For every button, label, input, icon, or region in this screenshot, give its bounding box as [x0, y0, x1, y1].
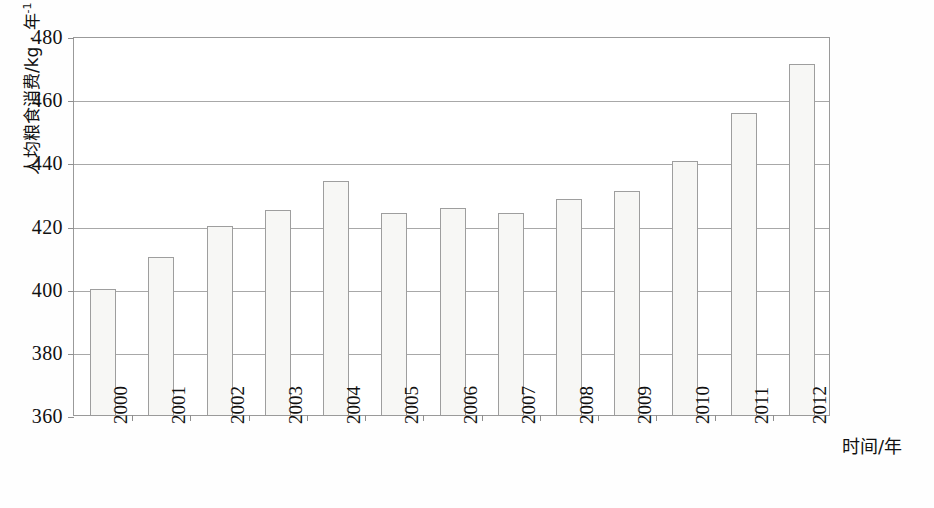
- chart-figure: 人均粮食消费/kg · 年-1 480460440420400380360 20…: [0, 0, 934, 508]
- x-axis-tick: [598, 415, 599, 421]
- x-axis-tick: [132, 415, 133, 421]
- x-axis-tick: [656, 415, 657, 421]
- y-axis-tick-label: 440: [17, 153, 63, 173]
- x-axis-tick-label: 2009: [635, 404, 654, 424]
- y-axis-title-superscript: -1: [21, 2, 34, 13]
- x-axis-tick-label: 2007: [519, 404, 538, 424]
- bar: [323, 181, 349, 415]
- x-axis-tick: [365, 415, 366, 421]
- y-axis-tick-label: 400: [17, 280, 63, 300]
- x-axis-tick-label: 2006: [461, 404, 480, 424]
- y-axis-tick: [68, 101, 74, 102]
- y-axis-tick: [68, 417, 74, 418]
- bar: [440, 208, 466, 415]
- x-axis-tick-label: 2008: [577, 404, 596, 424]
- x-axis-tick: [423, 415, 424, 421]
- bar: [381, 213, 407, 415]
- bar: [614, 191, 640, 415]
- x-axis-tick: [249, 415, 250, 421]
- y-axis-tick: [68, 291, 74, 292]
- y-axis-tick-label: 360: [17, 406, 63, 426]
- bar: [498, 213, 524, 415]
- y-axis-tick-label: 480: [17, 27, 63, 47]
- x-axis-tick: [190, 415, 191, 421]
- y-axis-tick: [68, 164, 74, 165]
- x-axis-tick-label: 2010: [693, 404, 712, 424]
- x-axis-tick-label: 2002: [228, 404, 247, 424]
- x-axis-tick-label: 2011: [752, 404, 771, 424]
- bar: [789, 64, 815, 415]
- x-axis-title: 时间/年: [842, 432, 902, 458]
- x-axis-tick: [307, 415, 308, 421]
- x-axis-tick: [482, 415, 483, 421]
- y-axis-tick-label: 460: [17, 90, 63, 110]
- bar-series: [74, 38, 829, 415]
- x-axis-tick: [715, 415, 716, 421]
- bar: [731, 113, 757, 415]
- x-axis-tick-label: 2000: [111, 404, 130, 424]
- x-axis-tick-label: 2005: [402, 404, 421, 424]
- bar: [265, 210, 291, 415]
- y-axis-tick-label: 380: [17, 343, 63, 363]
- y-axis-tick-label: 420: [17, 217, 63, 237]
- plot-area: [73, 37, 830, 416]
- x-axis-tick-label: 2004: [344, 404, 363, 424]
- x-axis-tick: [540, 415, 541, 421]
- x-axis-tick: [773, 415, 774, 421]
- bar: [672, 161, 698, 415]
- x-axis-tick-label: 2003: [286, 404, 305, 424]
- x-axis-tick-label: 2001: [169, 404, 188, 424]
- y-axis-tick: [68, 228, 74, 229]
- bar: [556, 199, 582, 415]
- x-axis-tick-label: 2012: [810, 404, 829, 424]
- y-axis-tick: [68, 354, 74, 355]
- y-axis-tick: [68, 38, 74, 39]
